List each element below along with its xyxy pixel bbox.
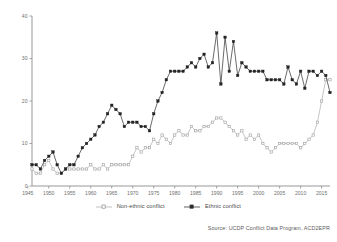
- data-point-marker: [216, 117, 218, 119]
- data-point-marker: [295, 142, 297, 144]
- data-point-marker: [186, 66, 189, 69]
- data-point-marker: [220, 83, 223, 86]
- data-point-marker: [73, 168, 75, 170]
- data-point-marker: [215, 32, 218, 35]
- data-point-marker: [56, 172, 58, 174]
- data-point-marker: [199, 57, 202, 60]
- data-point-marker: [73, 164, 76, 167]
- data-point-marker: [295, 83, 298, 86]
- data-point-marker: [169, 142, 171, 144]
- data-point-marker: [77, 168, 79, 170]
- data-point-marker: [329, 79, 331, 81]
- data-point-marker: [39, 172, 41, 174]
- data-point-marker: [157, 142, 159, 144]
- data-point-marker: [140, 151, 142, 153]
- data-point-marker: [224, 121, 226, 123]
- data-point-marker: [283, 142, 285, 144]
- x-axis-tick-label: 1950: [43, 190, 54, 196]
- data-point-marker: [85, 142, 88, 145]
- data-point-marker: [190, 62, 193, 65]
- data-point-marker: [123, 164, 125, 166]
- data-point-marker: [119, 113, 122, 116]
- data-point-marker: [287, 66, 290, 69]
- series-line: [32, 33, 330, 173]
- data-point-marker: [119, 164, 121, 166]
- legend-label-ethnic: Ethnic conflict: [205, 203, 241, 209]
- data-point-marker: [85, 168, 87, 170]
- data-point-marker: [299, 70, 302, 73]
- data-point-marker: [232, 130, 234, 132]
- data-point-marker: [39, 168, 42, 171]
- data-point-marker: [320, 100, 322, 102]
- data-point-marker: [207, 125, 209, 127]
- y-axis-tick-label: 10: [22, 140, 28, 146]
- data-point-marker: [262, 70, 265, 73]
- data-point-marker: [249, 134, 251, 136]
- legend-item-non-ethnic: Non-ethnic conflict: [96, 203, 165, 210]
- data-point-marker: [123, 125, 126, 128]
- data-point-marker: [245, 66, 248, 69]
- x-axis-tick-label: 1985: [190, 190, 201, 196]
- data-point-marker: [106, 168, 108, 170]
- data-point-marker: [111, 104, 114, 107]
- data-point-marker: [241, 62, 244, 65]
- x-axis-tick-label: 1975: [148, 190, 159, 196]
- data-point-marker: [207, 66, 210, 69]
- data-point-marker: [31, 164, 34, 167]
- data-point-marker: [316, 121, 318, 123]
- data-point-marker: [64, 168, 67, 171]
- data-point-marker: [173, 70, 176, 73]
- data-point-marker: [258, 134, 260, 136]
- data-point-marker: [249, 70, 252, 73]
- data-point-marker: [262, 142, 264, 144]
- data-point-marker: [106, 113, 109, 116]
- chart-legend: Non-ethnic conflict Ethnic conflict: [0, 203, 337, 210]
- x-axis-tick-label: 1965: [106, 190, 117, 196]
- data-point-marker: [165, 138, 167, 140]
- data-point-marker: [220, 117, 222, 119]
- x-axis-tick-label: 1995: [232, 190, 243, 196]
- data-point-marker: [115, 164, 117, 166]
- data-point-marker: [283, 83, 286, 86]
- data-point-marker: [266, 79, 269, 82]
- data-point-marker: [35, 172, 37, 174]
- data-point-marker: [98, 125, 101, 128]
- data-point-marker: [81, 168, 83, 170]
- data-point-marker: [48, 155, 51, 158]
- data-point-marker: [140, 125, 143, 128]
- data-point-marker: [94, 134, 97, 137]
- x-axis-tick-label: 1955: [64, 190, 75, 196]
- data-point-marker: [316, 74, 319, 77]
- data-point-marker: [186, 134, 188, 136]
- data-point-marker: [102, 121, 105, 124]
- data-point-marker: [232, 40, 235, 43]
- data-point-marker: [161, 134, 163, 136]
- data-point-marker: [48, 159, 50, 161]
- data-point-marker: [178, 70, 181, 73]
- data-point-marker: [228, 70, 231, 73]
- data-point-marker: [132, 155, 134, 157]
- y-axis-tick-label: 20: [22, 98, 28, 104]
- data-point-marker: [81, 147, 84, 150]
- data-point-marker: [308, 138, 310, 140]
- data-point-marker: [274, 79, 277, 82]
- data-point-marker: [60, 172, 63, 175]
- data-point-marker: [178, 130, 180, 132]
- data-point-marker: [199, 130, 201, 132]
- data-point-marker: [291, 142, 293, 144]
- data-point-marker: [278, 79, 281, 82]
- data-point-marker: [312, 134, 314, 136]
- data-point-marker: [236, 74, 239, 77]
- data-point-marker: [320, 70, 323, 73]
- data-point-marker: [312, 70, 315, 73]
- data-point-marker: [257, 70, 260, 73]
- data-point-marker: [270, 151, 272, 153]
- data-point-marker: [94, 168, 96, 170]
- x-axis-tick-label: 1980: [169, 190, 180, 196]
- data-point-marker: [182, 134, 184, 136]
- data-point-marker: [325, 74, 328, 77]
- data-point-marker: [329, 91, 332, 94]
- data-point-marker: [195, 130, 197, 132]
- data-point-marker: [127, 164, 129, 166]
- data-point-marker: [304, 87, 307, 90]
